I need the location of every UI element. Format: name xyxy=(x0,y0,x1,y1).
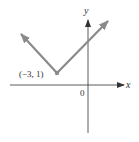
graph-figure: y x 0 (−3, 1) xyxy=(0,0,139,142)
graph-left-branch xyxy=(21,34,57,73)
origin-label: 0 xyxy=(80,88,85,98)
vertex-point xyxy=(55,71,59,75)
y-axis-label: y xyxy=(83,5,89,16)
graph-right-branch xyxy=(57,21,108,73)
vertex-label: (−3, 1) xyxy=(19,69,44,79)
x-axis-label: x xyxy=(125,79,131,90)
